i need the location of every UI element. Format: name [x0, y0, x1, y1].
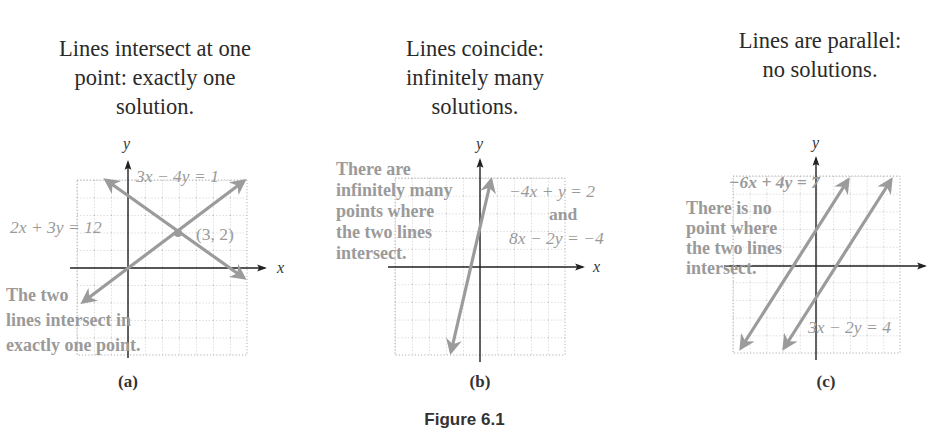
- panel-a-graph: x y 3x − 4y = 1 2x + 3y = 12 (3, 2) The …: [0, 0, 310, 400]
- note-line: exactly one point.: [6, 335, 141, 355]
- equation-label: 3x − 2y = 4: [807, 317, 891, 337]
- panel-c-label: (c): [806, 372, 846, 392]
- x-axis-label: x: [276, 259, 284, 276]
- note-line: the two lines: [336, 222, 432, 242]
- equation-label: 3x − 4y = 1: [135, 166, 219, 186]
- note-line: the two lines: [686, 238, 782, 258]
- y-axis-label: y: [121, 135, 131, 153]
- panel-a-label: (a): [108, 372, 148, 392]
- note-line: lines intersect in: [6, 310, 131, 330]
- equation-label: 2x + 3y = 12: [10, 217, 102, 237]
- note-line: point where: [686, 218, 777, 238]
- panel-b-graph: x y There are infinitely many points whe…: [310, 0, 610, 400]
- panel-c-graph: y −6x + 4y = 7 3x − 2y = 4 There is no p…: [610, 0, 929, 400]
- note-line: infinitely many: [336, 180, 453, 200]
- figure-caption: Figure 6.1: [0, 410, 929, 430]
- note-line: points where: [336, 201, 434, 221]
- panel-a: Lines intersect at one point: exactly on…: [0, 0, 310, 400]
- point-label: (3, 2): [196, 224, 234, 244]
- equation-label: 8x − 2y = −4: [509, 228, 604, 248]
- equation-label: −6x + 4y = 7: [729, 172, 821, 192]
- note-line: There is no: [686, 198, 772, 218]
- intersection-point: [174, 229, 182, 237]
- note-line: intersect.: [336, 243, 406, 263]
- panel-b-label: (b): [460, 372, 500, 392]
- equation-connector: and: [549, 204, 577, 224]
- panel-b: Lines coincide: infinitely many solution…: [310, 0, 610, 400]
- note-line: The two: [6, 285, 69, 305]
- note-line: There are: [336, 159, 411, 179]
- equation-label: −4x + y = 2: [509, 181, 595, 201]
- panel-c: Lines are parallel: no solutions. y −6x …: [610, 0, 929, 400]
- note-line: intersect.: [686, 258, 756, 278]
- y-axis-label: y: [810, 134, 820, 152]
- y-axis-label: y: [474, 135, 484, 153]
- x-axis-label: x: [592, 258, 600, 275]
